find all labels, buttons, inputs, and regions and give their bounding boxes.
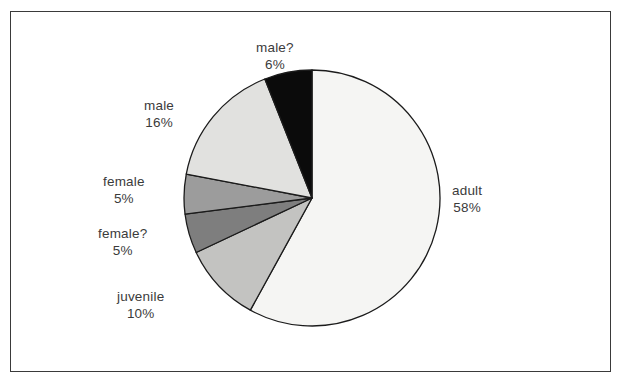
pie-slice-label-maleq: male?6%: [256, 39, 294, 74]
pie-slice-label-percent: 5%: [98, 242, 147, 259]
pie-slice-label-female: female5%: [103, 173, 145, 208]
pie-slice-label-male: male16%: [144, 97, 174, 132]
pie-slice-label-percent: 5%: [103, 190, 145, 207]
pie-slice-label-percent: 6%: [256, 56, 294, 73]
pie-chart-svg: [0, 0, 622, 385]
pie-slice-group: [184, 70, 440, 326]
pie-slice-label-percent: 16%: [144, 114, 174, 131]
pie-slice-label-name: female?: [98, 225, 147, 242]
pie-chart-figure: adult58%juvenile10%female?5%female5%male…: [0, 0, 622, 385]
pie-slice-label-juvenile: juvenile10%: [117, 288, 164, 323]
pie-slice-label-name: adult: [452, 182, 482, 199]
pie-slice-label-percent: 58%: [452, 199, 482, 216]
pie-slice-label-name: male?: [256, 39, 294, 56]
pie-slice-label-name: juvenile: [117, 288, 164, 305]
pie-slice-label-adult: adult58%: [452, 182, 482, 217]
pie-slice-label-percent: 10%: [117, 305, 164, 322]
pie-slice-label-name: female: [103, 173, 145, 190]
pie-slice-label-name: male: [144, 97, 174, 114]
pie-slice-label-femaleq: female?5%: [98, 225, 147, 260]
